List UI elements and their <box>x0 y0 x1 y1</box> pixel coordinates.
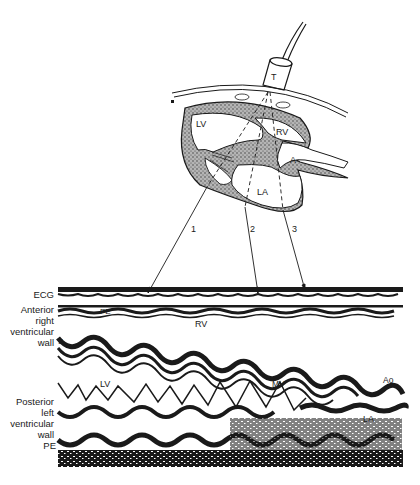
rv-label: RV <box>276 127 288 137</box>
heart-diagram: T LV RV A LA <box>148 22 348 293</box>
ecg-label: ECG <box>0 289 54 300</box>
beam-1-label: 1 <box>191 224 196 234</box>
pe-top-label: PE <box>100 307 111 316</box>
label-line: wall <box>0 429 54 440</box>
ao-trace-label: Ao <box>383 375 394 385</box>
label-line: ventricular <box>0 326 54 337</box>
aorta-label: A <box>290 155 296 165</box>
label-line: Posterior <box>0 396 54 407</box>
beam-3-label: 3 <box>292 224 297 234</box>
label-line: left <box>0 407 54 418</box>
rv-trace-label: RV <box>195 319 207 329</box>
la-label: LA <box>257 187 268 197</box>
label-line: right <box>0 315 54 326</box>
posterior-wall-trace <box>58 407 274 417</box>
mv-trace-label: MV <box>272 379 285 389</box>
septum-label: S <box>58 337 63 346</box>
pe-label: PE <box>0 440 56 451</box>
transducer-cable <box>282 22 303 60</box>
anterior-rv-wall-label: Anterior right ventricular wall <box>0 304 54 348</box>
posterior-lv-wall-label: Posterior left ventricular wall <box>0 396 54 440</box>
label-line: Anterior <box>0 304 54 315</box>
transducer-icon: T <box>263 56 293 90</box>
label-line: ventricular <box>0 418 54 429</box>
lv-label: LV <box>196 119 206 129</box>
label-line: wall <box>0 337 54 348</box>
ecg-trace <box>58 294 398 296</box>
beam-2-label: 2 <box>250 224 255 234</box>
la-trace-label: LA <box>363 414 374 424</box>
echocardiogram-figure: T LV RV A LA <box>0 0 420 485</box>
transducer-label: T <box>271 72 277 82</box>
lv-trace-label: LV <box>100 379 110 389</box>
